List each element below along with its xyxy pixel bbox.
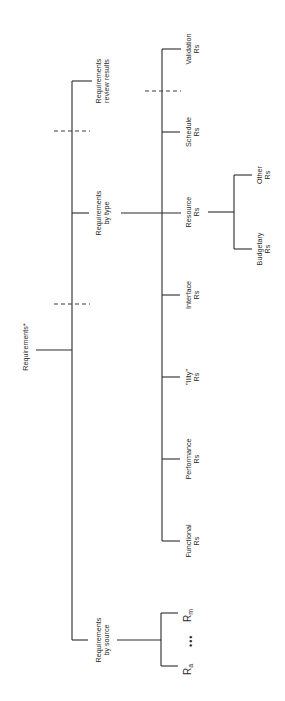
node-budgetary-rs: Budgetary Rs [256,218,272,280]
node-requirements-by-type: Requirements by type [95,182,111,244]
node-requirements-by-source: Requirements by source [95,609,111,671]
node-line2: Rs [193,346,201,408]
r-subscript: m [187,609,194,615]
root-label: Requirements* [22,312,30,382]
r-subscript: a [187,664,194,668]
node-r-a: Ra [182,664,194,675]
node-requirements-review-results: Requirements review results [95,50,111,112]
node-functional-rs: Functional Rs [185,510,201,572]
node-line2: Rs [193,510,201,572]
node-schedule-rs: Schedule Rs [185,101,201,163]
node-line2: Rs [193,101,201,163]
node-line2: Rs [193,264,201,326]
node-line2: Rs [193,18,201,80]
node-line2: by source [103,609,111,671]
node-line2: Rs [193,428,201,490]
r-base: R [182,615,193,622]
node-validation-rs: Validation Rs [185,18,201,80]
node-resource-rs: Resource Rs [185,181,201,243]
node-r-m: Rm [182,609,194,622]
r-base: R [182,668,193,675]
node-interface-rs: Interface Rs [185,264,201,326]
node-line2: review results [103,50,111,112]
tree-connectors [0,0,285,701]
ellipsis-text: ••• [186,635,196,647]
root-node: Requirements* [22,312,30,382]
node-line2: Rs [264,218,272,280]
node-line2: by type [103,182,111,244]
node-performance-rs: Performance Rs [185,428,201,490]
node-line2: Rs [193,181,201,243]
ellipsis-dots: ••• [186,635,196,647]
node-other-rs: Other Rs [256,144,272,206]
node-ility-rs: "Ility" Rs [185,346,201,408]
node-line2: Rs [264,144,272,206]
